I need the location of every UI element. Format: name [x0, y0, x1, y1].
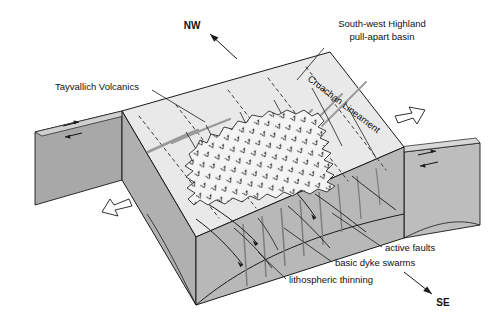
- label-lithospheric-thinning: lithospheric thinning: [289, 274, 373, 285]
- compass-label-nw: NW: [184, 20, 201, 31]
- label-basin-line1: South-west Highland: [338, 18, 426, 29]
- label-basic-dyke-swarms: basic dyke swarms: [335, 257, 415, 268]
- block-diagram-figure: NW SE Tayvallich Volcanics South-west Hi…: [0, 0, 494, 332]
- compass-label-se: SE: [436, 297, 450, 308]
- right-side-block: [399, 138, 480, 238]
- label-basin-line2: pull-apart basin: [350, 31, 415, 42]
- diagram-canvas: NW SE Tayvallich Volcanics South-west Hi…: [0, 0, 494, 332]
- label-active-faults: active faults: [385, 242, 435, 253]
- label-tayvallich-volcanics: Tayvallich Volcanics: [55, 81, 139, 92]
